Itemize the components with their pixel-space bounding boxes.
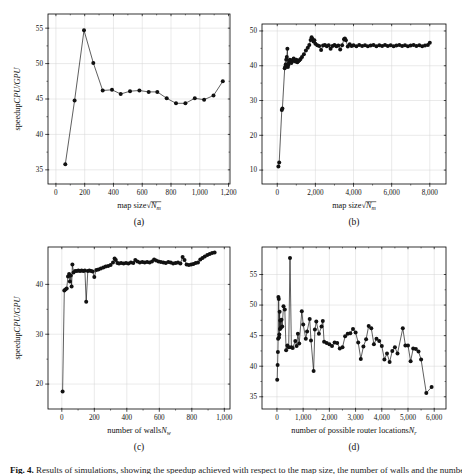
svg-text:20: 20 [36,380,44,388]
data-line [277,258,431,393]
svg-text:800: 800 [186,414,197,422]
y-axis-label: speedup CPU/GPU [13,295,22,359]
panel-tag: (b) [348,217,359,228]
x-tick-labels: 02,0004,0006,0008,000 [275,189,438,197]
svg-text:200: 200 [89,414,100,422]
svg-text:0: 0 [275,414,279,422]
svg-text:5,000: 5,000 [400,414,417,422]
svg-text:35: 35 [36,166,44,174]
plot-frame [262,24,446,184]
y-tick-labels: 3540455055 [250,271,258,401]
svg-text:40: 40 [250,62,258,70]
panel-d: 01,0002,0003,0004,0005,0006,000354045505… [250,247,446,453]
grid [262,24,446,184]
panel-a: 02004006008001,0001,2003540455055map siz… [13,14,237,228]
figure-caption-label: Fig. 4. [10,465,34,474]
svg-text:400: 400 [121,414,132,422]
svg-text:map size: map size [117,201,147,210]
x-tick-labels: 02004006008001,0001,200 [54,189,237,197]
svg-text:2,000: 2,000 [307,189,324,197]
svg-text:map size: map size [332,201,362,210]
svg-text:CPU/GPU: CPU/GPU [13,66,22,103]
figure-caption: Fig. 4. Results of simulations, showing … [10,465,462,474]
svg-text:speedup: speedup [13,332,22,359]
data-points [61,251,217,394]
svg-text:speedup: speedup [13,103,22,130]
svg-text:1,200: 1,200 [220,189,237,197]
svg-text:1,000: 1,000 [216,414,233,422]
panel-b: 02,0004,0006,0008,0001020304050map size … [250,24,446,228]
svg-text:50: 50 [250,301,258,309]
svg-text:4,000: 4,000 [345,189,362,197]
svg-text:45: 45 [36,95,44,103]
svg-text:0: 0 [60,414,64,422]
svg-text:30: 30 [250,97,258,105]
data-points [63,28,225,166]
svg-text:50: 50 [250,27,258,35]
svg-text:4,000: 4,000 [374,414,391,422]
x-tick-labels: 02004006008001,000 [60,414,233,422]
svg-text:m: m [157,205,162,211]
figure-caption-text: Results of simulations, showing the spee… [36,465,462,474]
svg-text:0: 0 [275,189,279,197]
svg-text:1,000: 1,000 [192,189,209,197]
svg-text:number of possible router loca: number of possible router locations [291,426,409,435]
svg-text:20: 20 [250,132,258,140]
x-tick-labels: 01,0002,0003,0004,0005,0006,000 [275,414,443,422]
svg-text:400: 400 [108,189,119,197]
svg-text:3,000: 3,000 [347,414,364,422]
svg-text:6,000: 6,000 [384,189,401,197]
svg-text:0: 0 [54,189,58,197]
svg-text:40: 40 [36,281,44,289]
x-axis-label: number of possible router locations Nr [291,426,417,436]
svg-text:40: 40 [36,131,44,139]
svg-text:6,000: 6,000 [426,414,443,422]
panel-tag: (c) [134,442,145,453]
svg-text:CPU/GPU: CPU/GPU [13,295,22,332]
x-axis-label: map size √Nm [117,201,161,211]
svg-text:w: w [167,430,171,436]
y-axis-label: speedup CPU/GPU [13,66,22,130]
svg-text:10: 10 [250,166,258,174]
y-tick-labels: 203040 [36,281,44,389]
figure-4-results: 02004006008001,0001,2003540455055map siz… [0,0,468,474]
data-points [275,256,433,395]
svg-text:35: 35 [250,393,258,401]
svg-text:m: m [372,205,377,211]
svg-text:800: 800 [166,189,177,197]
y-tick-labels: 1020304050 [250,27,258,174]
svg-text:1,000: 1,000 [295,414,312,422]
svg-text:600: 600 [137,189,148,197]
svg-text:45: 45 [250,332,258,340]
panel-tag: (a) [134,217,145,228]
svg-text:2,000: 2,000 [321,414,338,422]
svg-text:55: 55 [250,271,258,279]
svg-text:30: 30 [36,331,44,339]
panel-c: 02004006008001,000203040number of walls … [13,247,233,453]
svg-text:number of walls: number of walls [107,426,161,435]
svg-text:55: 55 [36,25,44,33]
svg-text:8,000: 8,000 [422,189,439,197]
charts-canvas: 02004006008001,0001,2003540455055map siz… [0,0,468,474]
x-axis-label: number of walls Nw [107,426,170,436]
svg-text:40: 40 [250,363,258,371]
data-points [276,35,431,168]
y-tick-labels: 3540455055 [36,25,44,175]
svg-text:600: 600 [154,414,165,422]
svg-text:r: r [414,430,417,436]
x-axis-label: map size √Nm [332,201,376,211]
svg-text:200: 200 [79,189,90,197]
svg-text:50: 50 [36,60,44,68]
data-line [65,30,223,164]
panel-tag: (d) [348,442,359,453]
